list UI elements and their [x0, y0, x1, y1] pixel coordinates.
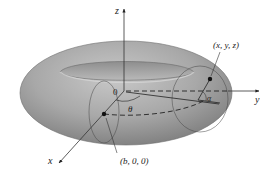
torus-body — [20, 41, 232, 145]
origin-label: 0 — [113, 87, 118, 97]
point-b00-label: (b, 0, 0) — [120, 156, 149, 166]
z-axis-label: z — [114, 5, 119, 16]
theta-label: θ — [128, 104, 133, 114]
y-axis-label: y — [254, 94, 260, 105]
point-xyz-label: (x, y, z) — [213, 40, 239, 50]
point-xyz[interactable] — [208, 77, 212, 81]
x-axis-label: x — [47, 155, 53, 166]
torus-diagram: z y x 0 θ α (x, y, z) (b, 0, 0) — [0, 0, 276, 186]
point-b00[interactable] — [102, 112, 106, 116]
